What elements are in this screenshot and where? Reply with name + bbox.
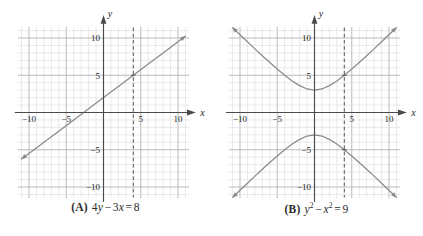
y-tick-label: 10: [302, 33, 312, 43]
x-tick-label: 5: [350, 114, 355, 124]
x-axis-label: x: [410, 107, 416, 118]
y-tick-label: 5: [96, 71, 101, 81]
caption-a-equation: 4y−3x=8: [88, 201, 140, 213]
coordinate-plane-b: xy−10−5510−10−5510: [211, 0, 422, 205]
caption-a-label: (A): [71, 201, 88, 213]
x-tick-label: −10: [233, 114, 248, 124]
y-tick-label: −5: [90, 145, 100, 155]
caption-a-equals: =: [124, 201, 134, 213]
x-tick-label: 5: [139, 114, 144, 124]
axes: [15, 15, 196, 202]
x-tick-label: −5: [61, 114, 71, 124]
y-tick-label: 5: [307, 71, 312, 81]
y-tick-label: 10: [91, 33, 101, 43]
panel-a: xy−10−5510−10−5510 (A)4y−3x=8: [0, 0, 211, 236]
two-panel-graph-figure: xy−10−5510−10−5510 (A)4y−3x=8 xy−10−5510…: [0, 0, 423, 236]
graph-a-plot: xy−10−5510−10−5510: [0, 0, 211, 205]
y-axis-label: y: [107, 8, 113, 19]
caption-b: (B)y2−x2=9: [211, 201, 422, 215]
caption-b-equals: =: [333, 203, 343, 215]
graph-b-plot: xy−10−5510−10−5510: [211, 0, 422, 205]
caption-b-equation: y2−x2=9: [301, 203, 349, 215]
caption-a-minus: −: [103, 201, 113, 213]
y-tick-label: −10: [86, 182, 101, 192]
x-tick-label: −10: [22, 114, 37, 124]
caption-b-rhs: 9: [342, 203, 348, 215]
x-axis-arrowhead: [187, 110, 196, 116]
y-axis-label: y: [318, 8, 324, 19]
x-tick-label: −5: [272, 114, 282, 124]
coordinate-plane-a: xy−10−5510−10−5510: [0, 0, 211, 205]
x-axis-label: x: [199, 107, 205, 118]
y-axis-arrowhead: [312, 15, 318, 24]
x-tick-label: 10: [385, 114, 395, 124]
panel-b: xy−10−5510−10−5510 (B)y2−x2=9: [211, 0, 422, 236]
y-axis-arrowhead: [101, 15, 107, 24]
caption-b-label: (B): [285, 203, 301, 215]
caption-a: (A)4y−3x=8: [0, 201, 211, 213]
y-tick-label: −10: [297, 182, 312, 192]
y-tick-label: −5: [301, 145, 311, 155]
x-tick-label: 10: [174, 114, 184, 124]
caption-a-rhs: 8: [134, 201, 140, 213]
x-axis-arrowhead: [398, 110, 407, 116]
